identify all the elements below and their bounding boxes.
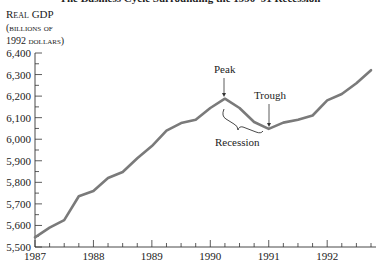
- y-tick-label: 6,400: [6, 47, 31, 59]
- peak-label: Peak: [214, 63, 236, 75]
- trough-arrowhead-icon: [267, 123, 271, 127]
- y-tick-label: 6,100: [6, 112, 31, 124]
- gdp-line: [35, 70, 371, 237]
- y-tick-label: 6,000: [6, 133, 31, 145]
- x-tick-label: 1988: [82, 250, 105, 262]
- x-tick-label: 1991: [258, 250, 280, 262]
- x-tick-label: 1989: [141, 250, 164, 262]
- x-tick-label: 1992: [316, 250, 338, 262]
- y-tick-label: 5,700: [6, 198, 31, 210]
- y-tick-label: 5,900: [6, 155, 31, 167]
- line-chart: 5,5005,6005,7005,8005,9006,0006,1006,200…: [0, 0, 380, 275]
- axis-ticks: 5,5005,6005,7005,8005,9006,0006,1006,200…: [6, 47, 371, 262]
- x-tick-label: 1990: [199, 250, 222, 262]
- axes: [35, 53, 376, 247]
- recession-label: Recession: [215, 136, 260, 148]
- y-tick-label: 5,800: [6, 176, 31, 188]
- y-tick-label: 6,300: [6, 69, 31, 81]
- peak-arrowhead-icon: [222, 93, 226, 97]
- y-tick-label: 5,600: [6, 219, 31, 231]
- trough-label: Trough: [254, 89, 286, 101]
- x-tick-label: 1987: [24, 250, 47, 262]
- y-tick-label: 6,200: [6, 90, 31, 102]
- annotations: Peak Trough Recession: [214, 63, 286, 148]
- gdp-series: [35, 70, 371, 237]
